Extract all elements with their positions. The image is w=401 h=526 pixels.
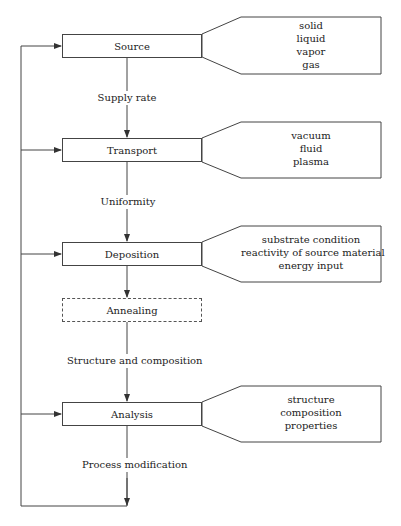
callout-item: composition [241,406,381,419]
step-source: Source [62,34,202,58]
callout-item: structure [241,393,381,406]
step-deposition: Deposition [62,242,202,266]
step-transport: Transport [62,138,202,162]
callout-item: liquid [241,32,381,45]
step-label: Transport [107,145,157,156]
step-label: Analysis [111,409,153,420]
step-analysis: Analysis [62,402,202,426]
callout-source: solid liquid vapor gas [241,19,381,71]
step-label: Source [114,41,150,52]
callout-analysis: structure composition properties [241,393,381,432]
callout-item: energy input [241,259,381,272]
callout-item: reactivity of source material [241,246,381,259]
callout-item: fluid [241,142,381,155]
step-label: Deposition [105,249,159,260]
connector-label-process-modification: Process modification [82,458,180,472]
connector-label-structure-composition: Structure and composition [67,354,195,368]
callout-transport: vacuum fluid plasma [241,129,381,168]
step-label: Annealing [106,305,157,316]
callout-deposition: substrate condition reactivity of source… [241,233,381,272]
callout-item: gas [241,58,381,71]
connector-label-uniformity: Uniformity [100,195,156,209]
callout-item: vapor [241,45,381,58]
callout-item: solid [241,19,381,32]
connector-label-supply-rate: Supply rate [97,91,157,105]
callout-item: plasma [241,155,381,168]
callout-item: properties [241,419,381,432]
callout-item: substrate condition [241,233,381,246]
callout-item: vacuum [241,129,381,142]
step-annealing: Annealing [62,298,202,322]
